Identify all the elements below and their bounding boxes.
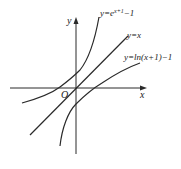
curve-exponential-label: y=ex+1−1 — [99, 8, 134, 18]
x-axis-label: x — [139, 89, 145, 100]
curve-identity — [30, 36, 128, 135]
y-axis-arrow-icon — [74, 17, 79, 24]
curve-logarithm — [60, 63, 140, 146]
function-diagram: y x O y=ex+1−1 y=x y=ln(x+1)−1 — [0, 0, 181, 169]
y-axis-label: y — [66, 15, 72, 26]
origin-label: O — [61, 89, 68, 100]
curve-logarithm-label: y=ln(x+1)−1 — [123, 52, 172, 62]
curve-identity-label: y=x — [126, 30, 141, 40]
